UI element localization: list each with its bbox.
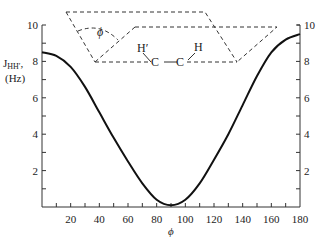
y-axis-units: (Hz) xyxy=(5,72,25,85)
x-tick-label: 60 xyxy=(123,213,135,225)
atom-label-c1: C xyxy=(151,55,159,69)
y-axis-title: JHH′, xyxy=(3,57,24,71)
y-tick-label-right: 2 xyxy=(304,165,310,177)
y-tick-label-left: 4 xyxy=(33,128,39,140)
x-tick-label: 120 xyxy=(206,213,223,225)
y-tick-label-left: 10 xyxy=(27,19,39,31)
ticks xyxy=(42,25,300,207)
x-tick-label: 80 xyxy=(151,213,163,225)
karplus-chart: ϕ H′ C C H 20406080100120140160180224466… xyxy=(0,0,320,247)
y-tick-label-right: 8 xyxy=(304,55,310,67)
x-tick-label: 100 xyxy=(177,213,194,225)
atom-label-c2: C xyxy=(176,55,184,69)
x-axis-title: ϕ xyxy=(168,225,174,237)
angle-label-phi: ϕ xyxy=(97,25,103,39)
y-tick-label-right: 4 xyxy=(304,128,310,140)
atom-label-h: H xyxy=(194,40,203,54)
y-tick-label-left: 8 xyxy=(33,55,39,67)
x-tick-label: 140 xyxy=(234,213,251,225)
x-tick-label: 40 xyxy=(94,213,106,225)
y-tick-label-left: 6 xyxy=(33,92,39,104)
y-tick-label-left: 2 xyxy=(33,165,39,177)
axes xyxy=(42,25,300,207)
x-tick-label: 180 xyxy=(292,213,309,225)
y-tick-label-right: 6 xyxy=(304,92,310,104)
atom-label-h-prime: H′ xyxy=(137,41,149,55)
y-tick-label-right: 10 xyxy=(304,19,316,31)
x-tick-label: 160 xyxy=(263,213,280,225)
x-tick-label: 20 xyxy=(65,213,77,225)
karplus-curve xyxy=(42,34,300,205)
